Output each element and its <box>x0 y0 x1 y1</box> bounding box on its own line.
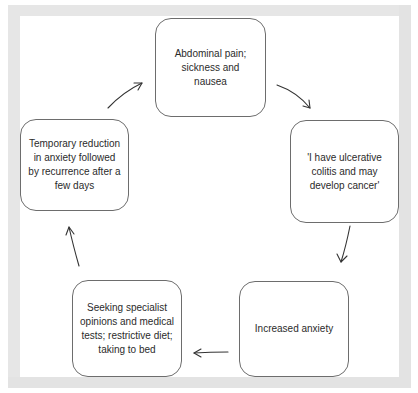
frame-border-top <box>8 5 410 16</box>
cycle-node-symptoms: Abdominal pain; sickness and nausea <box>155 18 266 117</box>
node-label: 'I have ulcerative colitis and may devel… <box>304 151 386 193</box>
frame-border-right <box>399 5 411 388</box>
node-label: Seeking specialist opinions and medical … <box>79 301 175 357</box>
cycle-node-relief: Temporary reduction in anxiety followed … <box>20 119 129 211</box>
cycle-node-anxiety: Increased anxiety <box>239 281 349 377</box>
cycle-node-belief: 'I have ulcerative colitis and may devel… <box>290 120 399 223</box>
node-label: Temporary reduction in anxiety followed … <box>28 137 122 193</box>
cycle-node-behaviours: Seeking specialist opinions and medical … <box>72 280 182 377</box>
node-label: Abdominal pain; sickness and nausea <box>171 47 251 89</box>
node-label: Increased anxiety <box>255 322 333 336</box>
frame-border-bottom <box>8 377 411 388</box>
frame-border-left <box>8 5 20 388</box>
